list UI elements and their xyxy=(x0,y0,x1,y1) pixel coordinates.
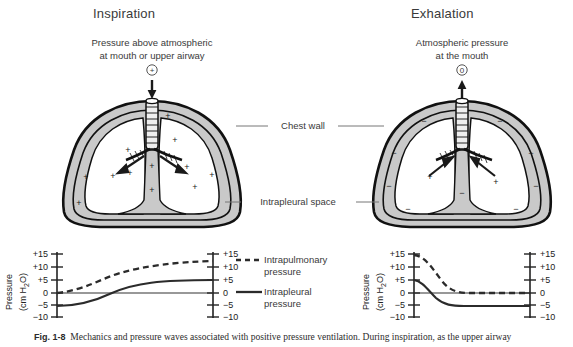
svg-text:+: + xyxy=(125,145,130,155)
zero-circle-icon: 0 xyxy=(457,65,467,76)
svg-text:+: + xyxy=(83,172,88,182)
zero-circle-symbol: 0 xyxy=(460,66,465,75)
svg-text:+: + xyxy=(76,198,81,208)
ylabel-right-line1: Pressure xyxy=(361,274,371,310)
svg-text:+: + xyxy=(172,135,177,145)
chart-left-ylabel: Pressure xyxy=(4,274,14,310)
center-callouts: Chest wall Intrapleural space xyxy=(225,120,384,207)
ylabel-line3: O) xyxy=(18,273,28,283)
tick-rightchart-r3: 0 xyxy=(540,288,545,298)
curve-intrapulmonary-right xyxy=(414,255,530,293)
tick-leftchart-r2: +5 xyxy=(223,275,233,285)
figure-caption: Fig. 1-8 Mechanics and pressure waves as… xyxy=(34,331,511,343)
exhalation-source-label-line2: at the mouth xyxy=(436,50,489,61)
label-intrapleural-space: Intrapleural space xyxy=(260,196,336,207)
chart-legend: Intrapulmonary pressure Intrapleural pre… xyxy=(236,254,328,309)
tick-leftchart-r4: −5 xyxy=(223,300,233,310)
svg-text:(cm H2O): (cm H2O) xyxy=(375,273,387,311)
tick-rightchart-r5: −10 xyxy=(540,312,555,322)
curve-intrapulmonary-left xyxy=(57,261,213,293)
svg-text:+: + xyxy=(427,172,432,182)
plus-circle-icon: + xyxy=(147,65,157,76)
arrow-down-icon xyxy=(148,80,157,99)
tick-rightchart-r1: +10 xyxy=(540,262,555,272)
ylabel-right-line3: O) xyxy=(375,273,385,283)
svg-text:−: − xyxy=(459,188,464,198)
svg-text:−: − xyxy=(533,181,538,191)
legend-label-intrapulmonary-1: Intrapulmonary xyxy=(264,254,328,265)
plus-circle-symbol: + xyxy=(150,66,155,75)
svg-text:(cm H2O): (cm H2O) xyxy=(18,273,30,311)
svg-text:+: + xyxy=(165,111,170,121)
figure-number: Fig. 1-8 xyxy=(34,332,66,342)
tick-right-3: 0 xyxy=(400,288,405,298)
tick-leftchart-r3: 0 xyxy=(223,288,228,298)
svg-text:+: + xyxy=(110,171,115,181)
svg-text:−: − xyxy=(513,204,518,214)
ylabel-line1: Pressure xyxy=(4,274,14,310)
svg-text:−: − xyxy=(497,116,502,126)
svg-text:+: + xyxy=(184,162,189,172)
tick-leftchart-r5: −10 xyxy=(223,312,238,322)
tick-left-4: −5 xyxy=(38,300,48,310)
svg-text:+: + xyxy=(127,168,132,178)
tick-rightchart-r4: −5 xyxy=(540,300,550,310)
arrow-up-icon xyxy=(458,80,467,99)
tick-left-1: +10 xyxy=(33,262,48,272)
chart-right-ylabel: Pressure xyxy=(361,274,371,310)
tick-left-0: +15 xyxy=(33,249,48,259)
svg-text:+: + xyxy=(149,185,154,195)
tick-rightchart-r2: +5 xyxy=(540,275,550,285)
tick-right-2: +5 xyxy=(395,275,405,285)
chart-inspiration: Pressure (cm H2O) +15 +10 +5 0 −5 xyxy=(4,249,238,322)
tick-left-3: 0 xyxy=(43,288,48,298)
figure-caption-text: Mechanics and pressure waves associated … xyxy=(70,332,511,342)
tick-right-1: +10 xyxy=(390,262,405,272)
inspiration-source-label-line2: at mouth or upper airway xyxy=(99,50,204,61)
svg-text:−: − xyxy=(528,148,533,158)
tick-right-5: −10 xyxy=(390,312,405,322)
svg-text:+: + xyxy=(209,170,214,180)
tick-right-4: −5 xyxy=(395,300,405,310)
trachea-icon xyxy=(146,98,158,149)
tick-leftchart-r1: +10 xyxy=(223,262,238,272)
svg-text:+: + xyxy=(149,161,154,171)
tick-right-0: +15 xyxy=(390,249,405,259)
chart-right-ylabel-units: (cm H2O) xyxy=(375,273,387,311)
panel-exhalation: Atmospheric pressure at the mouth 0 xyxy=(373,37,550,227)
svg-text:−: − xyxy=(421,116,426,126)
legend-label-intrapulmonary-2: pressure xyxy=(264,266,301,277)
inspiration-source-label-line1: Pressure above atmospheric xyxy=(92,37,213,48)
label-chest-wall: Chest wall xyxy=(281,120,325,131)
tick-left-2: +5 xyxy=(38,275,48,285)
figure-root: Inspiration Exhalation Pressure above at… xyxy=(0,0,573,347)
svg-text:−: − xyxy=(386,181,391,191)
ylabel-right-line2: (cm H xyxy=(375,287,385,311)
tick-rightchart-r0: +15 xyxy=(540,249,555,259)
svg-text:+: + xyxy=(493,177,498,187)
legend-label-intrapleural-1: Intrapleural xyxy=(264,286,312,297)
svg-text:+: + xyxy=(192,182,197,192)
tick-leftchart-r0: +15 xyxy=(223,249,238,259)
svg-text:−: − xyxy=(405,204,410,214)
diagram-canvas: Pressure above atmospheric at mouth or u… xyxy=(0,0,573,347)
panel-inspiration: Pressure above atmospheric at mouth or u… xyxy=(63,37,240,227)
ylabel-line2: (cm H xyxy=(18,287,28,311)
trachea-icon-right xyxy=(456,98,468,149)
legend-label-intrapleural-2: pressure xyxy=(264,298,301,309)
exhalation-source-label-line1: Atmospheric pressure xyxy=(416,37,508,48)
svg-text:−: − xyxy=(391,148,396,158)
chart-left-ylabel-units: (cm H2O) xyxy=(18,273,30,311)
chart-exhalation: Pressure (cm H2O) +15 +10 +5 0 −5 −10 xyxy=(361,249,555,322)
tick-left-5: −10 xyxy=(33,312,48,322)
